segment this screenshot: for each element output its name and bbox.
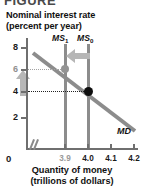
new-equilibrium-point xyxy=(61,65,69,73)
x-tick-4-0 xyxy=(87,144,89,150)
plot-area: MS1 MS0 MD 8 6 4 2 xyxy=(0,0,144,192)
x-axis-break-marker xyxy=(29,139,43,151)
x-axis-title-line2: (trillions of dollars) xyxy=(0,176,144,187)
y-tick-label-4: 4 xyxy=(4,87,18,96)
y-tick-6 xyxy=(21,69,27,71)
ms0-label-subscript: 0 xyxy=(90,37,93,44)
ms0-curve-label: MS0 xyxy=(77,33,93,43)
supply-shift-left-arrow xyxy=(66,48,90,64)
x-tick-label-4-1: 4.1 xyxy=(100,154,122,163)
x-tick-label-3-9: 3.9 xyxy=(54,154,76,163)
y-tick-label-6: 6 xyxy=(4,65,18,74)
x-tick-label-4-2: 4.2 xyxy=(123,154,144,163)
rate-4-guide-line xyxy=(28,91,90,92)
x-tick-label-4-0: 4.0 xyxy=(77,154,99,163)
ms1-label-text: MS xyxy=(52,33,65,43)
y-tick-4 xyxy=(21,91,27,93)
x-tick-4-2 xyxy=(133,144,135,150)
ms1-curve-label: MS1 xyxy=(52,33,68,43)
y-tick-2 xyxy=(21,117,27,119)
x-axis-title-line1: Quantity of money xyxy=(0,165,144,176)
x-tick-4-1 xyxy=(110,144,112,150)
md-curve-label: MD xyxy=(117,126,131,136)
x-axis-title: Quantity of money (trillions of dollars) xyxy=(0,165,144,187)
ms0-label-text: MS xyxy=(77,33,90,43)
ms1-label-subscript: 1 xyxy=(65,37,68,44)
origin-label: 0 xyxy=(6,153,11,164)
money-market-figure: FIGURE Nominal interest rate (percent pe… xyxy=(0,0,144,192)
initial-equilibrium-point xyxy=(84,87,93,96)
y-tick-8 xyxy=(21,47,27,49)
x-tick-3-9 xyxy=(64,144,66,150)
y-axis-line xyxy=(26,38,28,150)
y-tick-label-8: 8 xyxy=(4,43,18,52)
y-tick-label-2: 2 xyxy=(4,113,18,122)
